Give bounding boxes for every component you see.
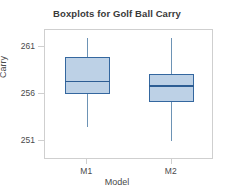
boxplot-box bbox=[149, 74, 194, 101]
plot-area bbox=[44, 29, 213, 159]
x-axis-tick-label-m2: M2 bbox=[165, 166, 177, 176]
boxplot-median-line bbox=[149, 85, 194, 87]
x-axis-tick-mark bbox=[86, 159, 87, 164]
y-axis-tick-label: 261 bbox=[21, 41, 35, 51]
x-axis-label: Model bbox=[0, 177, 234, 187]
x-axis-tick-mark bbox=[171, 159, 172, 164]
y-axis-tick-label: 256 bbox=[21, 88, 35, 98]
chart-title: Boxplots for Golf Ball Carry bbox=[0, 8, 234, 19]
boxplot-median-line bbox=[65, 81, 110, 83]
plot-inner bbox=[45, 30, 212, 158]
x-axis-tick-label-m1: M1 bbox=[80, 166, 92, 176]
boxplot-box bbox=[65, 57, 110, 94]
y-axis-tick-label: 251 bbox=[21, 135, 35, 145]
boxplot-figure: Boxplots for Golf Ball Carry Carry 25125… bbox=[0, 0, 234, 192]
y-axis-label: Carry bbox=[0, 56, 8, 78]
